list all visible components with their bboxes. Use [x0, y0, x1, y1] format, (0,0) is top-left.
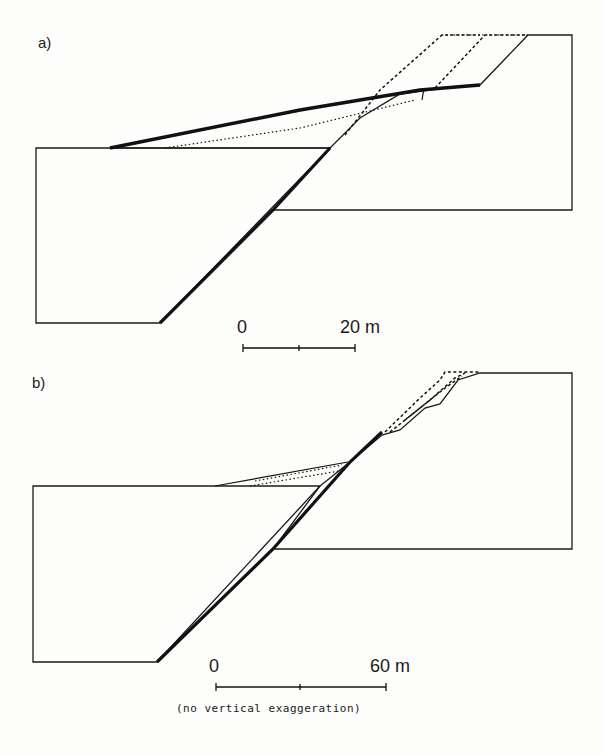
footwall-block-b — [33, 486, 320, 662]
scale-bar-a — [243, 344, 355, 352]
panel-a-label: a) — [38, 34, 51, 51]
hangingwall-block-b — [273, 373, 572, 549]
hangingwall-block-a — [273, 35, 572, 210]
scale-start-b: 0 — [209, 656, 219, 676]
figure-canvas: a) 0 20 m b) — [0, 0, 604, 755]
dashed-scarp-2-a — [435, 35, 528, 88]
vertical-exaggeration-note: (no vertical exaggeration) — [176, 702, 361, 715]
fault-trace-b — [157, 432, 382, 662]
panel-b: b) 0 60 m (no vertical exaggeration) — [32, 372, 572, 715]
scale-start-a: 0 — [237, 317, 247, 337]
scale-bar-b — [216, 683, 386, 691]
wedge-top-b — [215, 462, 348, 486]
panel-a: a) 0 20 m — [36, 34, 572, 352]
dashed-scarp-1-b — [385, 372, 480, 432]
footwall-block-a — [36, 148, 330, 323]
panel-b-label: b) — [32, 374, 45, 391]
surface-line-a — [110, 85, 480, 148]
scale-end-a: 20 m — [340, 317, 380, 337]
scale-end-b: 60 m — [370, 656, 410, 676]
